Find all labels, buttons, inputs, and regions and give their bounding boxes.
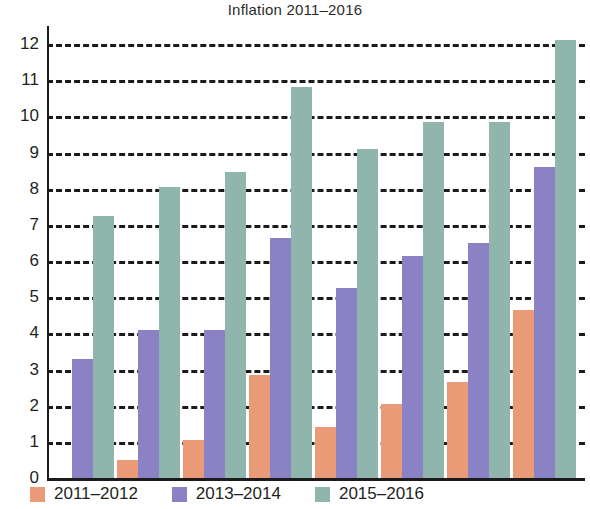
- legend-item[interactable]: 2013–2014: [172, 484, 281, 504]
- bars-layer: [47, 26, 585, 478]
- legend-swatch-icon: [315, 487, 330, 502]
- chart-container: Inflation 2011–2016 0123456789101112 201…: [0, 0, 590, 509]
- bar: [270, 238, 291, 478]
- y-axis-tick-label: 5: [0, 287, 39, 307]
- bar-group: [183, 26, 249, 478]
- bar: [381, 404, 402, 478]
- bar: [489, 122, 510, 478]
- bar: [204, 330, 225, 478]
- bar-group: [381, 26, 447, 478]
- y-axis-tick-label: 12: [0, 34, 39, 54]
- legend-swatch-icon: [172, 487, 187, 502]
- axis-baseline: [47, 478, 585, 481]
- legend-swatch-icon: [30, 487, 45, 502]
- legend-label: 2013–2014: [196, 484, 281, 504]
- y-axis-tick-label: 3: [0, 360, 39, 380]
- y-axis-tick-label: 9: [0, 143, 39, 163]
- bar: [117, 460, 138, 478]
- bar: [249, 375, 270, 478]
- bar: [555, 40, 576, 478]
- bar-group: [51, 26, 117, 478]
- plot-area: [47, 26, 585, 478]
- bar: [513, 310, 534, 478]
- chart-title: Inflation 2011–2016: [0, 1, 590, 18]
- bar: [315, 427, 336, 478]
- y-axis-tick-label: 7: [0, 215, 39, 235]
- y-axis-tick-label: 6: [0, 251, 39, 271]
- bar: [402, 256, 423, 478]
- y-axis-tick-label: 1: [0, 432, 39, 452]
- bar-group: [117, 26, 183, 478]
- bar: [468, 243, 489, 478]
- y-axis-tick-label: 8: [0, 179, 39, 199]
- y-axis-tick-label: 4: [0, 323, 39, 343]
- bar: [447, 382, 468, 478]
- y-axis-tick-label: 2: [0, 396, 39, 416]
- bar-group: [513, 26, 579, 478]
- bar-group: [447, 26, 513, 478]
- bar: [357, 149, 378, 478]
- legend-label: 2011–2012: [54, 484, 138, 504]
- y-axis-tick-label: 10: [0, 106, 39, 126]
- chart-legend: 2011–20122013–20142015–2016: [30, 484, 570, 504]
- bar: [225, 172, 246, 478]
- bar: [72, 359, 93, 478]
- bar: [93, 216, 114, 478]
- bar-group: [249, 26, 315, 478]
- legend-label: 2015–2016: [339, 484, 424, 504]
- bar: [534, 167, 555, 478]
- bar: [138, 330, 159, 478]
- legend-item[interactable]: 2011–2012: [30, 484, 138, 504]
- bar: [291, 87, 312, 478]
- y-axis-tick-label: 11: [0, 70, 39, 90]
- bar-group: [315, 26, 381, 478]
- legend-item[interactable]: 2015–2016: [315, 484, 424, 504]
- bar: [423, 122, 444, 478]
- bar: [336, 288, 357, 478]
- bar: [183, 440, 204, 478]
- bar: [159, 187, 180, 478]
